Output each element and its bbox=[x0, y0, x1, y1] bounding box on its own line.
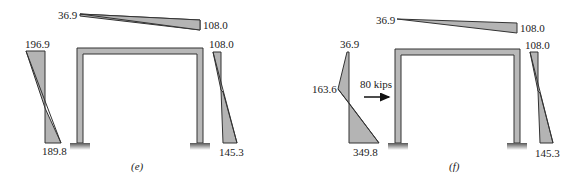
beam-right-moment-label: 108.0 bbox=[203, 19, 228, 31]
right-column-moment-diagram-e: 108.0 145.3 bbox=[209, 38, 244, 158]
panel-e: 36.9 108.0 196.9 189.8 108.0 145.3 (e) bbox=[25, 9, 244, 173]
applied-load: 80 kips bbox=[360, 78, 392, 97]
beam-moment-diagram-f: 36.9 108.0 bbox=[376, 14, 545, 34]
caption-f: (f) bbox=[449, 160, 460, 173]
right-column-bottom-moment-label: 145.3 bbox=[219, 146, 244, 158]
fixed-support-left bbox=[388, 143, 408, 150]
caption-e: (e) bbox=[131, 160, 144, 173]
fixed-support-left bbox=[70, 143, 90, 150]
beam-left-moment-label: 36.9 bbox=[58, 9, 78, 21]
panel-f: 36.9 108.0 80 kips 36.9 163.6 349.8 bbox=[312, 14, 560, 173]
beam-right-moment-label: 108.0 bbox=[520, 22, 545, 34]
fixed-support-right bbox=[507, 143, 527, 150]
right-column-top-moment-label: 108.0 bbox=[525, 39, 550, 51]
right-column-moment-diagram-f: 108.0 145.3 bbox=[525, 39, 560, 159]
beam-left-moment-label: 36.9 bbox=[376, 14, 396, 26]
beam-moment-diagram-e: 36.9 108.0 bbox=[58, 9, 228, 31]
right-column-bottom-moment-label: 145.3 bbox=[535, 147, 560, 159]
left-column-top-moment-label: 36.9 bbox=[340, 38, 360, 50]
frame-f bbox=[388, 49, 527, 150]
load-label: 80 kips bbox=[360, 78, 392, 90]
left-column-bottom-moment-label: 349.8 bbox=[353, 146, 378, 158]
left-column-top-moment-label: 196.9 bbox=[25, 38, 50, 50]
moment-diagrams-figure: 36.9 108.0 196.9 189.8 108.0 145.3 (e) bbox=[0, 0, 579, 189]
fixed-support-right bbox=[190, 143, 210, 150]
left-column-moment-diagram-e: 196.9 189.8 bbox=[25, 38, 67, 157]
left-column-load-point-moment-label: 163.6 bbox=[312, 83, 337, 95]
left-column-bottom-moment-label: 189.8 bbox=[42, 145, 67, 157]
frame-e bbox=[70, 48, 210, 150]
left-column-moment-diagram-f: 36.9 163.6 349.8 bbox=[312, 38, 379, 158]
right-column-top-moment-label: 108.0 bbox=[209, 38, 234, 50]
